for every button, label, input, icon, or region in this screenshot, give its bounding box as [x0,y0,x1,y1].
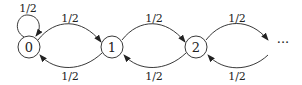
svg-text:0: 0 [25,40,33,55]
svg-text:2: 2 [192,40,200,55]
svg-text:1: 1 [108,40,116,55]
node-1: 1 [101,36,123,58]
edge-2-more [206,24,268,41]
label-2-more: 1/2 [228,12,246,25]
edge-self-0 [17,15,39,37]
node-0: 0 [18,36,40,58]
label-0-1: 1/2 [61,12,79,25]
edge-1-2 [122,24,185,42]
edge-0-1 [38,24,101,42]
edge-2-1 [124,53,186,68]
label-1-2: 1/2 [145,12,163,25]
label-more-2: 1/2 [228,70,246,83]
label-1-0: 1/2 [61,70,79,83]
label-self-0: 1/2 [19,2,37,15]
ellipsis-node: ··· [277,35,289,50]
label-2-1: 1/2 [145,70,163,83]
node-2: 2 [185,36,207,58]
markov-chain-diagram: 0 1 2 ··· 1/2 1/2 1/2 1/2 1/2 1/2 1/2 [0,0,302,85]
edge-1-0 [40,53,102,68]
edge-more-2 [208,55,268,68]
